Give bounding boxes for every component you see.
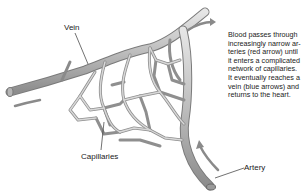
- artery-vessel: [183, 30, 216, 190]
- artery-leader-line: [215, 168, 244, 178]
- artery-flow-arrow: [196, 140, 218, 170]
- caption-text: Blood passes through increasingly narrow…: [228, 31, 303, 100]
- circulation-diagram: Vein Capillaries Artery Blood passes thr…: [0, 0, 303, 196]
- caption-line: returns to the heart.: [228, 91, 303, 100]
- vein-leader-line: [75, 33, 88, 64]
- vein-label: Vein: [64, 24, 80, 32]
- artery-label: Artery: [244, 164, 265, 172]
- vein-vessel: [7, 12, 205, 97]
- capillaries-label: Capillaries: [81, 153, 118, 161]
- vein-flow-arrow-left: [15, 100, 40, 106]
